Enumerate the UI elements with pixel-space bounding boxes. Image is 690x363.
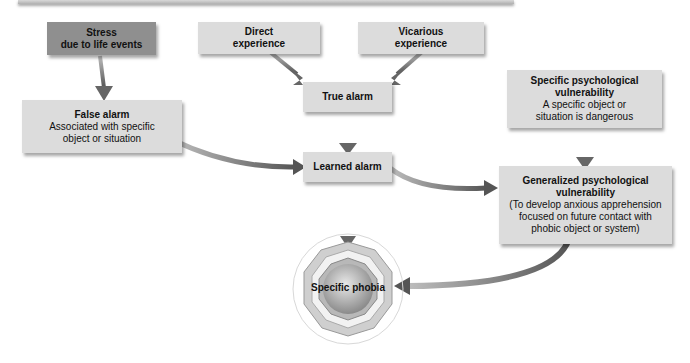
node-specific-vulnerability: Specific psychological vulnerability A s…	[507, 70, 662, 128]
node-vicarious-title: Vicarious	[399, 26, 444, 38]
node-generalized-vulnerability: Generalized psychological vulnerability …	[499, 166, 672, 244]
node-false-alarm: False alarm Associated with specific obj…	[22, 100, 182, 153]
node-stress: Stress due to life events	[47, 22, 156, 55]
node-specific-vuln-line1: A specific object or	[543, 99, 626, 111]
node-direct-experience: Direct experience	[198, 22, 320, 54]
node-false-alarm-line2: object or situation	[63, 133, 141, 145]
node-false-alarm-title: False alarm	[74, 109, 129, 121]
node-learned-alarm-title: Learned alarm	[313, 161, 381, 173]
node-general-vuln-title2: vulnerability	[556, 187, 615, 199]
node-specific-vuln-title2: vulnerability	[555, 87, 614, 99]
node-general-vuln-line1: (To develop anxious apprehension	[509, 199, 661, 211]
node-specific-vuln-title1: Specific psychological	[531, 75, 639, 87]
node-direct-title: Direct	[245, 26, 273, 38]
node-true-alarm: True alarm	[303, 82, 392, 112]
node-general-vuln-line3: phobic object or system)	[531, 223, 639, 235]
node-specific-phobia: Specific phobia	[308, 282, 388, 293]
node-stress-subtitle: due to life events	[61, 39, 143, 51]
node-specific-vuln-line2: situation is dangerous	[536, 111, 633, 123]
node-general-vuln-line2: focused on future contact with	[519, 211, 652, 223]
node-true-alarm-title: True alarm	[322, 91, 373, 103]
node-false-alarm-line1: Associated with specific	[49, 121, 155, 133]
node-general-vuln-title1: Generalized psychological	[522, 175, 648, 187]
node-learned-alarm: Learned alarm	[303, 152, 392, 182]
node-stress-title: Stress	[86, 27, 117, 39]
node-vicarious-experience: Vicarious experience	[358, 22, 484, 54]
node-direct-subtitle: experience	[233, 38, 285, 50]
node-vicarious-subtitle: experience	[395, 38, 447, 50]
